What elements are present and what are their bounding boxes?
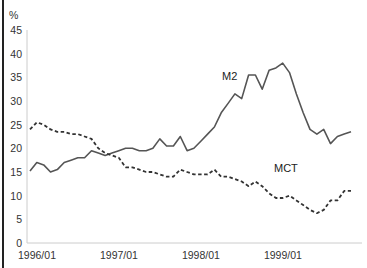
- y-tick-label: 10: [10, 190, 22, 202]
- mct-series-label: MCT: [274, 162, 298, 174]
- y-tick-label: 45: [10, 24, 22, 36]
- y-tick-label: 30: [10, 95, 22, 107]
- line-chart: %0510152025303540451996/011997/011998/01…: [0, 0, 367, 268]
- mct-line: [30, 122, 351, 213]
- y-tick-label: 35: [10, 71, 22, 83]
- x-tick-label: 1998/01: [182, 249, 220, 261]
- x-tick-label: 1997/01: [100, 249, 138, 261]
- y-tick-label: 15: [10, 166, 22, 178]
- m2-line: [30, 63, 351, 172]
- y-tick-label: 25: [10, 119, 22, 131]
- y-tick-label: 40: [10, 48, 22, 60]
- x-tick-label: 1996/01: [18, 249, 56, 261]
- m2-series-label: M2: [222, 70, 237, 82]
- y-tick-label: 5: [16, 213, 22, 225]
- series-group: [30, 63, 351, 213]
- axes: %0510152025303540451996/011997/011998/01…: [9, 9, 362, 261]
- y-unit-label: %: [9, 9, 18, 21]
- y-tick-label: 0: [16, 237, 22, 249]
- y-tick-label: 20: [10, 142, 22, 154]
- x-tick-label: 1999/01: [264, 249, 302, 261]
